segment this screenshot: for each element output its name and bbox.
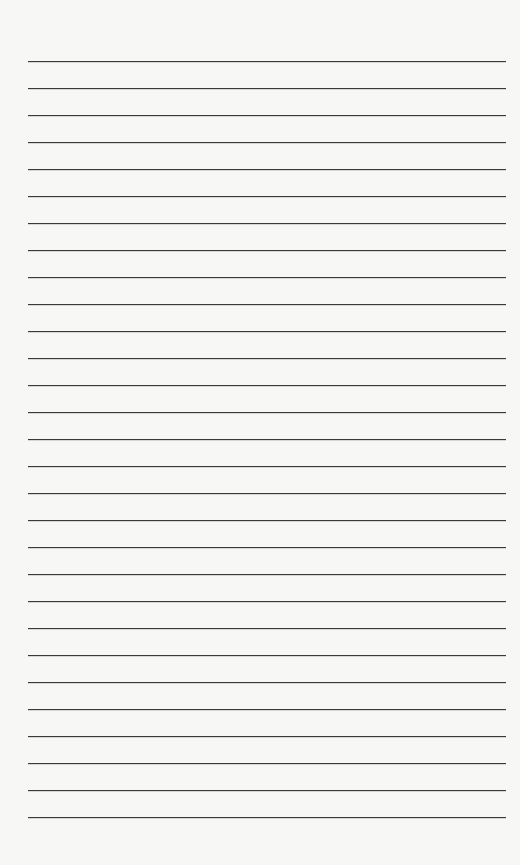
ruled-line	[28, 304, 506, 305]
ruled-line	[28, 331, 506, 332]
ruled-line	[28, 493, 506, 494]
ruled-line	[28, 655, 506, 656]
ruled-line	[28, 520, 506, 521]
ruled-line	[28, 250, 506, 251]
ruled-line	[28, 790, 506, 791]
ruled-line	[28, 709, 506, 710]
ruled-line	[28, 439, 506, 440]
ruled-line	[28, 223, 506, 224]
ruled-line	[28, 115, 506, 116]
ruled-line	[28, 547, 506, 548]
ruled-line	[28, 628, 506, 629]
ruled-line	[28, 574, 506, 575]
ruled-line	[28, 412, 506, 413]
lined-paper-page	[0, 0, 520, 865]
ruled-line	[28, 817, 506, 818]
ruled-line	[28, 736, 506, 737]
ruled-line	[28, 358, 506, 359]
ruled-line	[28, 61, 506, 62]
ruled-line	[28, 169, 506, 170]
ruled-line	[28, 277, 506, 278]
ruled-line	[28, 763, 506, 764]
ruled-line	[28, 466, 506, 467]
ruled-line	[28, 682, 506, 683]
ruled-line	[28, 601, 506, 602]
ruled-line	[28, 196, 506, 197]
ruled-line	[28, 142, 506, 143]
ruled-line	[28, 385, 506, 386]
ruled-line	[28, 88, 506, 89]
